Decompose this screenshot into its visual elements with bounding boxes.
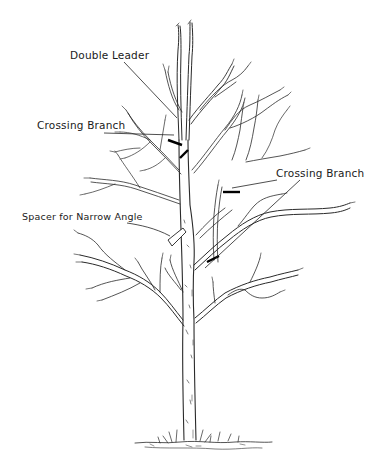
label-crossing-branch-left: Crossing Branch xyxy=(37,119,125,131)
upper-right-branches xyxy=(189,59,310,173)
ground xyxy=(135,430,272,449)
label-crossing-branch-right: Crossing Branch xyxy=(276,167,364,179)
leader-crossing-branch-left xyxy=(104,133,174,135)
leader-crossing-branch-right-2 xyxy=(205,180,300,268)
tree-drawing xyxy=(0,0,383,469)
leader-double-leader xyxy=(124,62,177,118)
spacer-block xyxy=(168,228,186,246)
tree-illustration: Double Leader Crossing Branch Crossing B… xyxy=(0,0,383,469)
lower-branches xyxy=(74,230,303,326)
double-leader-stems xyxy=(163,20,193,140)
cut-mark-crossing-left-2 xyxy=(180,150,188,158)
leader-lines xyxy=(104,62,300,268)
trunk xyxy=(179,140,196,440)
cut-mark-crossing-left-1 xyxy=(168,140,182,145)
leader-spacer xyxy=(127,223,170,236)
leader-crossing-branch-right-1 xyxy=(232,180,277,188)
label-double-leader: Double Leader xyxy=(70,49,149,61)
label-spacer-narrow-angle: Spacer for Narrow Angle xyxy=(22,211,143,222)
